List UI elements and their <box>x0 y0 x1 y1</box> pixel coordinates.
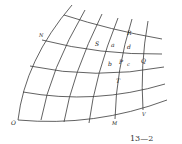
vertical-line-V <box>142 21 148 110</box>
label-R: R <box>126 29 132 36</box>
label-S: S <box>95 40 99 47</box>
label-T: T <box>116 77 121 84</box>
curve-family-1 <box>18 15 167 121</box>
vertical-line-3 <box>64 14 102 122</box>
label-a: a <box>111 41 115 48</box>
label-N: N <box>38 32 44 38</box>
vertical-line-4 <box>89 18 118 123</box>
curvilinear-grid-diagram: N S a R d b P c Q T O M V 13—2 <box>0 0 182 144</box>
label-P: P <box>118 58 124 65</box>
figure-number: 13—2 <box>130 134 153 143</box>
label-Q: Q <box>141 57 146 64</box>
label-M: M <box>111 120 118 126</box>
label-b: b <box>108 60 112 67</box>
curve-line-3 <box>30 66 164 73</box>
vertical-line-2 <box>41 10 85 120</box>
label-c: c <box>127 61 130 67</box>
label-d: d <box>127 43 131 50</box>
label-V: V <box>142 111 147 117</box>
label-O: O <box>11 119 16 126</box>
